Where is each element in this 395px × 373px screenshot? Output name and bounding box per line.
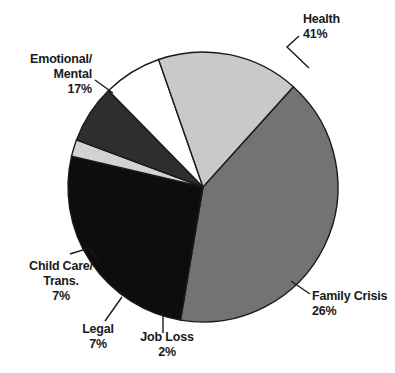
pie-label-health: Health 41% [303, 12, 340, 42]
pie-label-emotional-mental-percent: 17% [8, 82, 92, 97]
pie-label-family-crisis-name: Family Crisis [312, 289, 387, 303]
pie-chart-figure: Health 41% Emotional/ Mental 17% Child C… [0, 0, 395, 373]
pie-label-legal-percent: 7% [70, 337, 126, 352]
pie-label-child-care-percent: 7% [8, 289, 114, 304]
leader-line-emotional [95, 80, 113, 93]
pie-label-child-care: Child Care/ Trans. 7% [8, 259, 114, 303]
pie-label-legal: Legal 7% [70, 322, 126, 352]
pie-label-legal-name: Legal [82, 322, 114, 336]
pie-label-job-loss: Job Loss 2% [129, 330, 205, 360]
pie-label-emotional-mental: Emotional/ Mental 17% [8, 52, 92, 96]
pie-label-family-crisis-percent: 26% [312, 304, 387, 319]
pie-label-emotional-mental-name1: Emotional/ [30, 52, 92, 66]
pie-label-job-loss-percent: 2% [129, 345, 205, 360]
pie-label-job-loss-name: Job Loss [140, 330, 193, 344]
pie-label-health-name: Health [303, 12, 340, 26]
pie-label-child-care-name1: Child Care/ [29, 259, 93, 273]
pie-label-child-care-name2: Trans. [8, 274, 114, 289]
pie-label-health-percent: 41% [303, 27, 340, 42]
pie-label-family-crisis: Family Crisis 26% [312, 289, 387, 319]
pie-label-emotional-mental-name2: Mental [8, 67, 92, 82]
